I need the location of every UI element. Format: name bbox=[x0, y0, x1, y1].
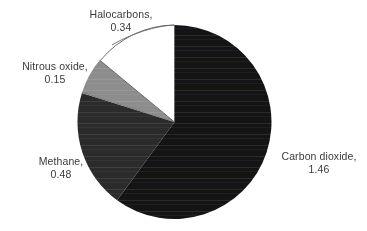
pie-chart-figure: Halocarbons, 0.34 Nitrous oxide, 0.15 Me… bbox=[0, 0, 367, 231]
slice-label-methane: Methane, 0.48 bbox=[20, 155, 102, 180]
slice-label-carbon-dioxide-value: 1.46 bbox=[272, 163, 366, 176]
slice-label-nitrous-oxide-name: Nitrous oxide, bbox=[22, 60, 88, 72]
slice-label-methane-value: 0.48 bbox=[20, 168, 102, 181]
slice-label-carbon-dioxide-name: Carbon dioxide, bbox=[281, 150, 356, 162]
slice-label-halocarbons-value: 0.34 bbox=[76, 21, 166, 34]
pie-chart-canvas bbox=[0, 0, 367, 231]
slice-label-halocarbons-name: Halocarbons, bbox=[89, 8, 152, 20]
slice-label-methane-name: Methane, bbox=[39, 155, 84, 167]
slice-label-halocarbons: Halocarbons, 0.34 bbox=[76, 8, 166, 33]
slice-label-nitrous-oxide-value: 0.15 bbox=[6, 73, 104, 86]
slice-label-carbon-dioxide: Carbon dioxide, 1.46 bbox=[272, 150, 366, 175]
slice-label-nitrous-oxide: Nitrous oxide, 0.15 bbox=[6, 60, 104, 85]
